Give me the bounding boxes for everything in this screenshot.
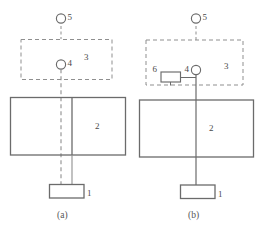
panel-b-node-5-label: 5 <box>203 12 208 22</box>
panel-b-caption: (b) <box>188 210 199 221</box>
panel-a-caption: (a) <box>57 210 68 221</box>
figure-container: 5 3 4 2 1 (a) <box>0 0 262 231</box>
panel-a-lower-box-1-label: 1 <box>87 188 92 198</box>
panel-a-node-4-circle <box>56 60 65 69</box>
panel-a-node-5-circle <box>56 14 65 23</box>
panel-b-side-module-6-label: 6 <box>153 64 158 74</box>
panel-a-node-5-label: 5 <box>68 12 73 22</box>
panel-b-lower-box-1 <box>181 185 216 199</box>
panel-b-lower-box-1-label: 1 <box>218 189 223 199</box>
panel-b-main-body-2-label: 2 <box>209 123 214 133</box>
panel-a-main-body-2-label: 2 <box>95 121 100 131</box>
panel-b-node-4-circle <box>191 65 200 74</box>
panel-b-node-4-label: 4 <box>185 64 190 74</box>
panel-a-lower-box-1 <box>50 185 85 199</box>
panel-b-side-module-6 <box>161 72 181 82</box>
panel-a-enclosure-3-label: 3 <box>84 52 89 62</box>
panel-a-enclosure-3 <box>21 40 112 80</box>
panel-a: 5 3 4 2 1 (a) <box>11 12 126 222</box>
panel-a-main-body-2 <box>11 98 126 156</box>
schematic-diagram: 5 3 4 2 1 (a) <box>0 0 262 231</box>
panel-b-enclosure-3-label: 3 <box>224 61 229 71</box>
panel-b: 5 3 4 6 2 1 (b) <box>140 12 254 222</box>
panel-a-node-4-label: 4 <box>68 58 73 68</box>
panel-b-node-5-circle <box>191 14 200 23</box>
